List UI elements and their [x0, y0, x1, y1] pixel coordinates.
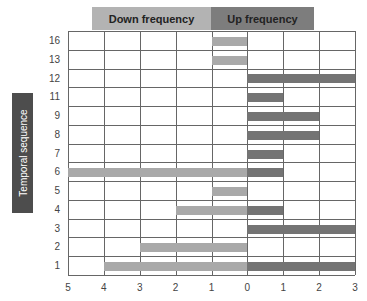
grid-hline [68, 256, 355, 257]
row-label: 7 [40, 144, 60, 164]
row-label: 13 [40, 50, 60, 70]
down-frequency-bar [104, 262, 248, 271]
x-tick-label: 5 [60, 282, 76, 293]
up-frequency-bar [247, 93, 283, 102]
grid-vline [355, 31, 356, 275]
row-label: 16 [40, 31, 60, 51]
y-axis-label: Temporal sequence [17, 109, 28, 196]
up-frequency-bar [247, 112, 319, 121]
x-tick-label: 4 [96, 282, 112, 293]
grid-hline [68, 237, 355, 238]
up-frequency-bar [247, 168, 283, 177]
row-label: 3 [40, 219, 60, 239]
x-tick-label: 3 [347, 282, 363, 293]
x-tick-label: 0 [239, 282, 255, 293]
row-label: 2 [40, 237, 60, 257]
up-frequency-bar [247, 150, 283, 159]
down-frequency-bar [176, 206, 248, 215]
grid-hline [68, 69, 355, 70]
x-tick-label: 2 [311, 282, 327, 293]
down-frequency-bar [140, 243, 248, 252]
y-axis-label-box: Temporal sequence [12, 93, 33, 213]
chart-grid: 16131211987654321 [68, 31, 355, 275]
grid-hline [68, 87, 355, 88]
grid-hline [68, 181, 355, 182]
grid-hline [68, 200, 355, 201]
up-frequency-bar [247, 225, 355, 234]
up-frequency-bar [247, 131, 319, 140]
grid-hline [68, 144, 355, 145]
x-tick-label: 2 [168, 282, 184, 293]
row-label: 12 [40, 69, 60, 89]
up-frequency-bar [247, 74, 355, 83]
row-label: 4 [40, 200, 60, 220]
x-tick-label: 1 [204, 282, 220, 293]
down-frequency-header: Down frequency [92, 7, 211, 30]
grid-hline [68, 162, 355, 163]
x-tick-label: 3 [132, 282, 148, 293]
grid-hline [68, 275, 355, 276]
down-frequency-bar [68, 168, 247, 177]
x-tick-label: 1 [275, 282, 291, 293]
row-label: 11 [40, 87, 60, 107]
up-frequency-bar [247, 206, 283, 215]
grid-hline [68, 50, 355, 51]
grid-hline [68, 125, 355, 126]
down-frequency-bar [212, 187, 248, 196]
down-frequency-bar [212, 56, 248, 65]
row-label: 6 [40, 162, 60, 182]
grid-hline [68, 106, 355, 107]
grid-hline [68, 219, 355, 220]
row-label: 9 [40, 106, 60, 126]
up-frequency-header: Up frequency [211, 7, 314, 30]
grid-hline [68, 31, 355, 32]
row-label: 8 [40, 125, 60, 145]
row-label: 5 [40, 181, 60, 201]
up-frequency-bar [247, 262, 355, 271]
row-label: 1 [40, 256, 60, 276]
down-frequency-bar [212, 37, 248, 46]
